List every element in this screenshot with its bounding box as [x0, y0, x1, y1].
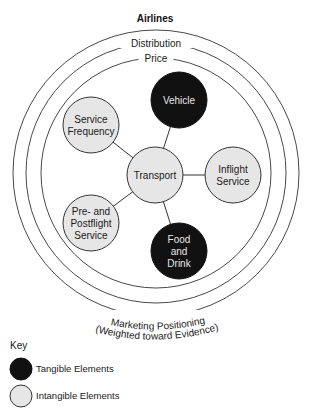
node-label: Postflight	[70, 218, 111, 229]
key-legend: Key Tangible Elements Intangible Element…	[10, 340, 120, 407]
tangible-swatch-icon	[10, 358, 32, 380]
node-label: Service	[74, 230, 108, 241]
node-inflight-service: InflightService	[205, 147, 261, 203]
ring-label-price: Price	[145, 53, 168, 64]
intangible-swatch-icon	[10, 385, 32, 407]
node-label: Drink	[167, 258, 191, 269]
node-label: Transport	[134, 170, 177, 181]
diagram-title: Airlines	[137, 13, 174, 24]
node-food-and-drink: FoodandDrink	[151, 223, 207, 279]
key-label-intangible: Intangible Elements	[36, 390, 120, 401]
node-label: Food	[168, 234, 191, 245]
node-label: Service	[74, 114, 108, 125]
node-label: Inflight	[218, 164, 248, 175]
node-transport: Transport	[127, 147, 183, 203]
key-title: Key	[10, 340, 27, 351]
node-vehicle: Vehicle	[151, 72, 207, 128]
node-label: Service	[216, 176, 250, 187]
ring-label-distribution: Distribution	[131, 38, 181, 49]
node-label: Vehicle	[163, 95, 196, 106]
node-label: and	[171, 246, 188, 257]
nodes: TransportVehicleServiceFrequencyInflight…	[63, 72, 261, 279]
node-service-frequency: ServiceFrequency	[63, 97, 119, 153]
key-label-tangible: Tangible Elements	[36, 363, 114, 374]
node-pre-postflight-service: Pre- andPostflightService	[63, 195, 119, 251]
airline-product-diagram: Airlines DistributionPrice TransportVehi…	[0, 0, 309, 413]
node-label: Pre- and	[72, 206, 110, 217]
node-label: Frequency	[67, 126, 114, 137]
